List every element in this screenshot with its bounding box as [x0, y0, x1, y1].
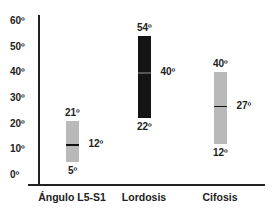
median-value-label: 40º	[161, 67, 176, 77]
y-tick-label: 30º	[10, 93, 34, 103]
range-bar	[214, 72, 227, 144]
median-line	[214, 106, 227, 108]
range-bar	[66, 121, 79, 162]
median-line	[66, 144, 79, 146]
x-category-label: Cifosis	[180, 192, 260, 203]
max-value-label: 21º	[65, 108, 80, 118]
y-axis-line	[38, 15, 40, 185]
median-value-label: 27º	[237, 101, 252, 111]
min-value-label: 5º	[68, 166, 77, 176]
max-value-label: 54º	[137, 23, 152, 33]
max-value-label: 40º	[213, 59, 228, 69]
range-chart: 0º10º20º30º40º50º60º 21º5º12ºÁngulo L5-S…	[0, 0, 278, 208]
x-category-label: Ángulo L5-S1	[32, 192, 112, 203]
y-tick-label: 60º	[10, 16, 34, 26]
x-category-label: Lordosis	[104, 192, 184, 203]
y-tick-label: 20º	[10, 119, 34, 129]
median-value-label: 12º	[89, 139, 104, 149]
y-tick-label: 40º	[10, 67, 34, 77]
y-tick-label: 0º	[10, 170, 34, 180]
y-tick-label: 10º	[10, 144, 34, 154]
x-axis-line	[28, 184, 265, 186]
min-value-label: 12º	[213, 148, 228, 158]
min-value-label: 22º	[137, 122, 152, 132]
median-line	[138, 72, 151, 74]
y-tick-label: 50º	[10, 42, 34, 52]
range-bar	[138, 36, 151, 118]
